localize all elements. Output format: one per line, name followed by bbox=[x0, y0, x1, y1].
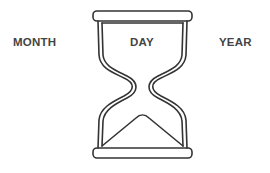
hourglass-sand bbox=[102, 115, 183, 146]
hourglass-glass-inner-right bbox=[149, 23, 183, 146]
hourglass-bottom-cap bbox=[93, 148, 192, 158]
hourglass-top-cap bbox=[93, 11, 192, 21]
day-label: DAY bbox=[130, 36, 154, 48]
month-label: MONTH bbox=[13, 36, 56, 48]
year-label: YEAR bbox=[219, 36, 252, 48]
hourglass-icon bbox=[0, 0, 270, 173]
